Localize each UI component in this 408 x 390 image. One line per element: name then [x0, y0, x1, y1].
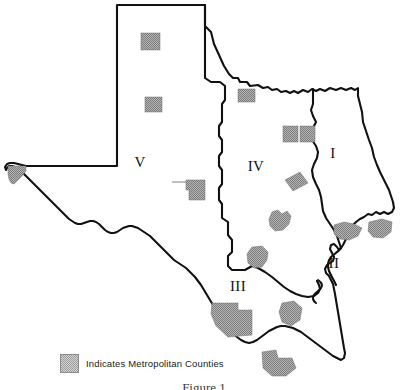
figure-caption: Figure 1	[0, 381, 408, 390]
metro-patch-west-central	[186, 180, 205, 200]
legend-label: Indicates Metropolitan Counties	[86, 358, 224, 369]
texas-regions-figure: I II III IV V Indicates Metropolitan Cou…	[0, 0, 408, 390]
metro-patch-rio-grande-valley	[262, 350, 296, 376]
region-label-ii: II	[329, 255, 340, 271]
metro-patch-panhandle-south	[145, 97, 162, 112]
metro-patch-north-central-west	[283, 126, 298, 142]
region-label-v: V	[134, 154, 145, 170]
map-legend: Indicates Metropolitan Counties	[60, 354, 224, 373]
metro-patch-southeast-corner	[368, 219, 392, 238]
texas-map-svg: I II III IV V	[0, 0, 408, 390]
metro-patch-red-river	[238, 89, 255, 102]
metro-patch-upper-coast	[334, 222, 362, 240]
metro-patch-north-central-east	[300, 126, 315, 142]
metro-patch-el-paso	[8, 166, 26, 184]
metro-county-swatch-icon	[60, 354, 79, 373]
region-label-iv: IV	[248, 158, 265, 174]
region-label-i: I	[330, 145, 335, 161]
region-label-iii: III	[230, 278, 246, 294]
metro-patch-panhandle-north	[141, 33, 160, 50]
